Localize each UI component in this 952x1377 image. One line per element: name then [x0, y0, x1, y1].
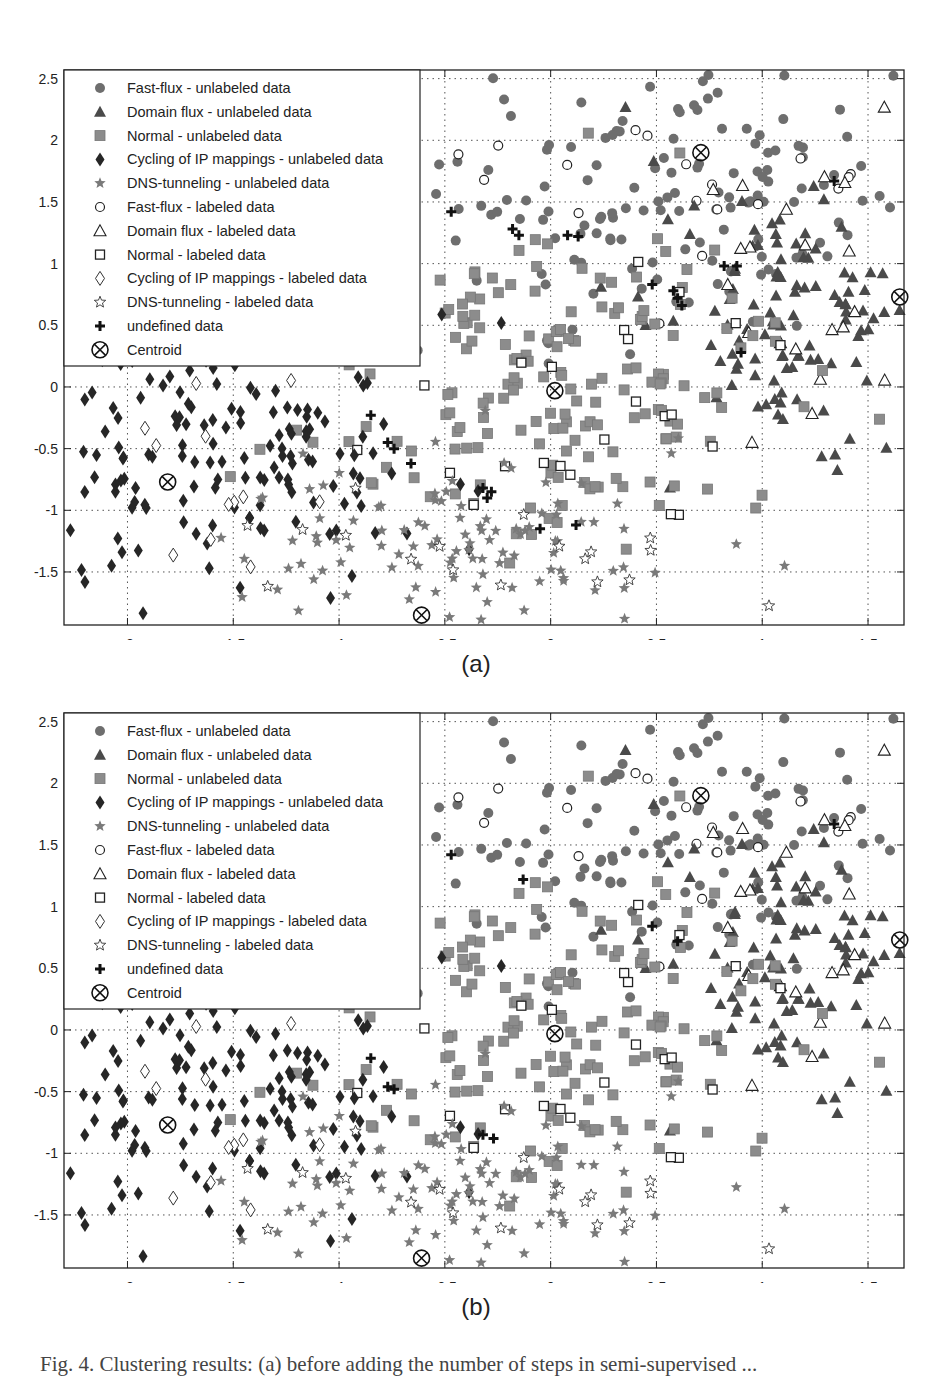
point-unlabeled — [722, 323, 732, 333]
point-unlabeled — [591, 397, 601, 407]
point-unlabeled — [499, 94, 509, 104]
legend-marker-icon — [96, 203, 105, 212]
point-labeled — [624, 335, 633, 344]
point-unlabeled — [875, 191, 885, 201]
point-unlabeled — [539, 372, 549, 382]
point-labeled — [454, 793, 463, 802]
x-tick-label: -1 — [333, 1279, 346, 1283]
point-unlabeled — [473, 1086, 483, 1096]
point-unlabeled — [488, 73, 498, 83]
point-unlabeled — [629, 826, 639, 836]
point-unlabeled — [583, 771, 593, 781]
point-unlabeled — [514, 245, 524, 255]
point-labeled — [420, 381, 429, 390]
point-unlabeled — [455, 1066, 465, 1076]
legend-label: DNS-tunneling - unlabeled data — [127, 818, 330, 834]
point-unlabeled — [742, 124, 752, 134]
point-unlabeled — [652, 275, 662, 285]
point-unlabeled — [695, 880, 705, 890]
point-labeled — [666, 510, 675, 519]
point-unlabeled — [584, 1095, 594, 1105]
point-unlabeled — [669, 1124, 679, 1134]
point-unlabeled — [524, 974, 534, 984]
point-unlabeled — [592, 803, 602, 813]
point-unlabeled — [695, 237, 705, 247]
point-unlabeled — [567, 968, 577, 978]
legend-label: Cycling of IP mappings - unlabeled data — [127, 151, 384, 167]
point-labeled — [547, 362, 556, 371]
point-unlabeled — [592, 160, 602, 170]
point-unlabeled — [778, 114, 788, 124]
point-unlabeled — [797, 827, 807, 837]
legend-label: Fast-flux - labeled data — [127, 842, 275, 858]
point-unlabeled — [435, 918, 445, 928]
point-unlabeled — [629, 183, 639, 193]
y-tick-label: 1.5 — [39, 837, 59, 853]
point-unlabeled — [710, 245, 720, 255]
point-unlabeled — [659, 796, 669, 806]
point-unlabeled — [476, 844, 486, 854]
point-unlabeled — [650, 319, 660, 329]
point-unlabeled — [726, 846, 736, 856]
point-unlabeled — [558, 423, 568, 433]
point-unlabeled — [748, 974, 758, 984]
point-unlabeled — [817, 366, 827, 376]
y-tick-label: -1.5 — [34, 564, 58, 580]
point-unlabeled — [616, 235, 626, 245]
point-unlabeled — [450, 489, 460, 499]
point-unlabeled — [475, 294, 485, 304]
point-unlabeled — [541, 279, 551, 289]
point-unlabeled — [435, 275, 445, 285]
point-unlabeled — [555, 324, 565, 334]
y-tick-label: -1 — [46, 1145, 59, 1161]
point-unlabeled — [631, 1006, 641, 1016]
point-unlabeled — [656, 205, 666, 215]
point-labeled — [539, 1101, 548, 1110]
point-unlabeled — [822, 894, 832, 904]
point-unlabeled — [757, 1133, 767, 1143]
point-unlabeled — [483, 808, 493, 818]
point-labeled — [708, 1085, 717, 1094]
point-unlabeled — [835, 105, 845, 115]
y-tick-label: 1 — [50, 899, 58, 915]
point-unlabeled — [755, 773, 765, 783]
point-unlabeled — [564, 977, 574, 987]
point-unlabeled — [583, 175, 593, 185]
point-unlabeled — [724, 835, 734, 845]
point-unlabeled — [661, 889, 671, 899]
point-unlabeled — [653, 234, 663, 244]
point-unlabeled — [625, 349, 635, 359]
point-unlabeled — [406, 1089, 416, 1099]
point-unlabeled — [608, 773, 618, 783]
point-labeled — [698, 251, 707, 260]
point-labeled — [556, 461, 565, 470]
x-tick-label: 0.5 — [647, 1279, 667, 1283]
point-unlabeled — [530, 286, 540, 296]
point-unlabeled — [499, 393, 509, 403]
point-unlabeled — [482, 429, 492, 439]
point-unlabeled — [675, 107, 685, 117]
point-unlabeled — [549, 1067, 559, 1077]
x-tick-label: 1.5 — [858, 1279, 878, 1283]
point-unlabeled — [561, 1089, 571, 1099]
point-unlabeled — [751, 1146, 761, 1156]
scatter-panel-b: -2-1.5-1-0.500.511.52.521.510.50-0.5-1-1… — [0, 643, 952, 1343]
point-unlabeled — [579, 863, 589, 873]
point-unlabeled — [467, 336, 477, 346]
point-unlabeled — [703, 70, 713, 80]
point-labeled — [620, 969, 629, 978]
point-unlabeled — [710, 888, 720, 898]
point-unlabeled — [712, 388, 722, 398]
point-unlabeled — [515, 857, 525, 867]
point-unlabeled — [717, 124, 727, 134]
point-unlabeled — [713, 922, 723, 932]
legend-label: Domain flux - labeled data — [127, 866, 296, 882]
point-unlabeled — [703, 713, 713, 723]
point-labeled — [517, 1001, 526, 1010]
point-unlabeled — [566, 142, 576, 152]
legend-label: Centroid — [127, 342, 182, 358]
y-tick-label: 2.5 — [39, 714, 59, 730]
point-unlabeled — [443, 1032, 453, 1042]
point-unlabeled — [544, 207, 554, 217]
point-unlabeled — [478, 398, 488, 408]
